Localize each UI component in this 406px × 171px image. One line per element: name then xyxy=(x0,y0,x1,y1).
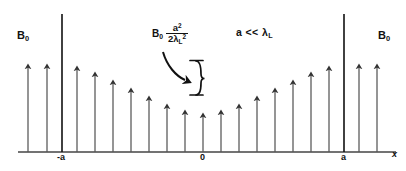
diagram-svg xyxy=(0,0,406,171)
field-label-left: B0 xyxy=(17,30,29,42)
axis-label-x: x xyxy=(392,150,397,159)
fraction-denominator: 2λL2 xyxy=(166,33,188,45)
fraction-numerator: a2 xyxy=(166,23,188,33)
amplitude-brace xyxy=(190,61,205,96)
callout-arrow xyxy=(163,52,185,80)
amplitude-label: B0a22λL2 xyxy=(152,24,188,46)
amplitude-fraction: a22λL2 xyxy=(166,23,188,45)
axis-tick-label-zero: 0 xyxy=(200,153,205,162)
axis-tick-label-a: a xyxy=(341,153,346,162)
field-label-right: B0 xyxy=(378,30,390,42)
figure-canvas: B0 B0 a << λL B0a22λL2 -a 0 a x xyxy=(0,0,406,171)
axis-tick-label-minus-a: -a xyxy=(57,153,65,162)
condition-label: a << λL xyxy=(236,27,273,40)
field-arrow-group xyxy=(28,68,377,152)
